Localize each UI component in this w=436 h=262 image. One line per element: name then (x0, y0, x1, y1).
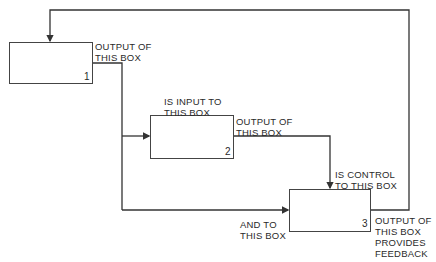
box-3 (289, 189, 371, 232)
box3-control-arrow (233, 136, 330, 188)
box2-input-label: IS INPUT TO THIS BOX (164, 96, 222, 118)
box1-output-line (92, 63, 122, 210)
box-2 (150, 115, 234, 159)
box-1-number: 1 (84, 71, 90, 82)
box-3-number: 3 (362, 218, 368, 229)
box-2-number: 2 (225, 146, 231, 157)
box-1 (9, 42, 93, 84)
box2-output-label: OUTPUT OF THIS BOX (236, 116, 293, 138)
box3-output-label: OUTPUT OF THIS BOX PROVIDES FEEDBACK (375, 215, 432, 259)
box1-output-label: OUTPUT OF THIS BOX (95, 41, 152, 63)
box3-input-label: AND TO THIS BOX (240, 219, 286, 241)
box3-control-label: IS CONTROL TO THIS BOX (335, 169, 397, 191)
